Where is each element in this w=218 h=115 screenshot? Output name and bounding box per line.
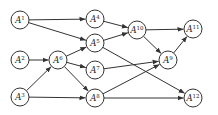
edge-a1-to-a5 [29, 23, 86, 41]
node-label-superscript: 7 [96, 65, 100, 71]
edge-a10-to-a11 [146, 29, 184, 30]
edge-a9-to-a11 [174, 36, 187, 53]
node-label-superscript: 4 [96, 14, 100, 20]
node-label-superscript: 3 [21, 92, 25, 98]
node-label-base: A [89, 65, 96, 75]
node-a12: A12 [184, 89, 202, 107]
edge-a7-to-a9 [104, 61, 159, 68]
node-label-base: A [185, 24, 192, 34]
edge-a6-to-a7 [67, 62, 86, 67]
node-label-superscript: 2 [21, 55, 25, 61]
edge-a10-to-a9 [143, 36, 161, 53]
node-a6: A6 [49, 51, 67, 69]
edge-a3-to-a8 [29, 97, 86, 98]
edge-a6-to-a5 [66, 47, 86, 56]
edge-a3-to-a6 [26, 67, 51, 91]
node-a11: A11 [184, 20, 202, 38]
node-label-superscript: 6 [59, 55, 63, 61]
node-label-base: A [162, 55, 169, 65]
node-a4: A4 [86, 10, 104, 28]
node-label-base: A [89, 93, 96, 103]
node-a7: A7 [86, 61, 104, 79]
node-a1: A1 [11, 11, 29, 29]
node-label-base: A [89, 14, 96, 24]
edge-a1-to-a4 [29, 19, 86, 20]
node-label-superscript: 10 [137, 25, 144, 31]
edge-a5-to-a10 [104, 33, 128, 41]
node-label-superscript: 8 [96, 93, 100, 99]
node-label-superscript: 5 [96, 38, 100, 44]
directed-graph: A1A2A3A4A5A6A7A8A9A10A11A12 [0, 0, 218, 115]
edge-a8-to-a9 [103, 64, 160, 93]
node-a9: A9 [159, 51, 177, 69]
node-label-superscript: 12 [193, 93, 200, 99]
node-label-base: A [89, 38, 96, 48]
node-label-superscript: 1 [21, 15, 25, 21]
node-label-base: A [14, 55, 21, 65]
node-a5: A5 [86, 34, 104, 52]
node-a3: A3 [11, 88, 29, 106]
node-a10: A10 [128, 21, 146, 39]
node-label-superscript: 9 [169, 55, 173, 61]
edge-a6-to-a8 [64, 66, 88, 91]
node-label-base: A [52, 55, 59, 65]
node-label-superscript: 11 [193, 24, 200, 30]
node-a2: A2 [11, 51, 29, 69]
node-label-base: A [129, 25, 136, 35]
node-label-base: A [14, 92, 21, 102]
node-a8: A8 [86, 89, 104, 107]
node-label-base: A [185, 93, 192, 103]
edge-a4-to-a10 [104, 21, 128, 27]
node-label-base: A [14, 15, 21, 25]
